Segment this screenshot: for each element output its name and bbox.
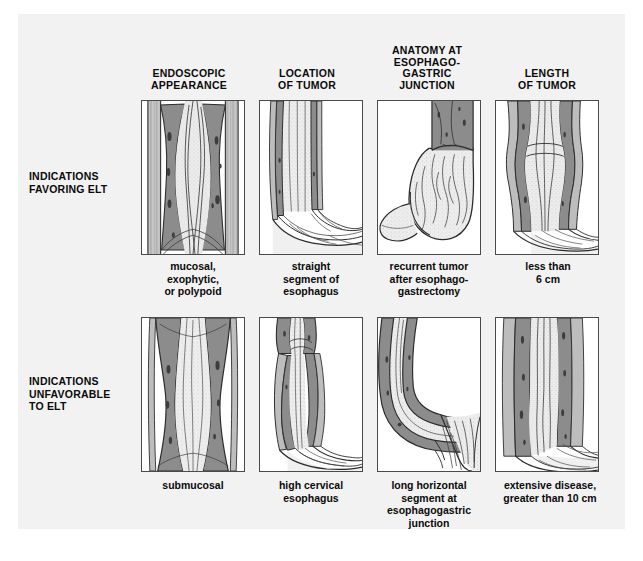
caption-r2c4: extensive disease, greater than 10 cm (488, 479, 612, 504)
extensive-long-tumor-illustration (496, 318, 598, 471)
figure-root: ENDOSCOPIC APPEARANCE LOCATION OF TUMOR … (0, 0, 643, 561)
illustration-panel-r2c4-length-of-tumor (495, 317, 599, 472)
header-line: APPEARANCE (136, 80, 242, 92)
caption-line: long horizontal (368, 479, 490, 492)
illustration-panel-r2c1-endoscopic-appearance (141, 317, 245, 472)
short-tumor-length-illustration (496, 101, 598, 254)
header-line: ENDOSCOPIC (136, 68, 242, 80)
illustration-panel-r2c2-location-of-tumor (259, 317, 363, 472)
caption-r1c1: mucosal, exophytic, or polypoid (136, 260, 250, 298)
illustration-panel-r1c1-endoscopic-appearance (141, 100, 245, 255)
column-header-location-of-tumor: LOCATION OF TUMOR (254, 68, 360, 91)
caption-line: esophagus (254, 285, 368, 298)
caption-r1c3: recurrent tumor after esophago- gastrect… (368, 260, 490, 298)
caption-line: after esophago- (368, 273, 490, 286)
caption-line: segment at (368, 492, 490, 505)
column-header-anatomy-at-esophagogastric-junction: ANATOMY AT ESOPHAGO- GASTRIC JUNCTION (372, 45, 482, 91)
header-line: LENGTH (494, 68, 600, 80)
row-label-line: UNFAVORABLE (29, 388, 133, 401)
caption-line: extensive disease, (488, 479, 612, 492)
caption-r1c4: less than 6 cm (492, 260, 604, 285)
caption-line: esophagus (254, 492, 368, 505)
column-header-endoscopic-appearance: ENDOSCOPIC APPEARANCE (136, 68, 242, 91)
esophagus-mucosal-tumor-illustration (142, 101, 244, 254)
caption-r1c2: straight segment of esophagus (254, 260, 368, 298)
header-line: LOCATION (254, 68, 360, 80)
row-label-line: FAVORING ELT (29, 183, 133, 196)
caption-line: submucosal (136, 479, 250, 492)
caption-line: esophagogastric (368, 504, 490, 517)
caption-line: mucosal, (136, 260, 250, 273)
long-horizontal-egj-segment-illustration (378, 318, 480, 471)
header-line: GASTRIC (372, 68, 482, 80)
row-label-line: INDICATIONS (29, 375, 133, 388)
caption-line: gastrectomy (368, 285, 490, 298)
caption-r2c3: long horizontal segment at esophagogastr… (368, 479, 490, 529)
caption-r2c2: high cervical esophagus (254, 479, 368, 504)
caption-line: straight (254, 260, 368, 273)
straight-esophageal-segment-illustration (260, 101, 362, 254)
caption-line: or polypoid (136, 285, 250, 298)
header-line: OF TUMOR (494, 80, 600, 92)
row-label-line: TO ELT (29, 400, 133, 413)
illustration-panel-r1c3-anatomy-at-egj (377, 100, 481, 255)
row-label-line: INDICATIONS (29, 170, 133, 183)
row-label-indications-favoring-elt: INDICATIONS FAVORING ELT (29, 170, 133, 195)
illustration-panel-r1c4-length-of-tumor (495, 100, 599, 255)
caption-line: recurrent tumor (368, 260, 490, 273)
caption-r2c1: submucosal (136, 479, 250, 492)
caption-line: exophytic, (136, 273, 250, 286)
caption-line: junction (368, 517, 490, 530)
gastric-pullup-recurrent-tumor-illustration (378, 101, 480, 254)
esophagus-submucosal-tumor-illustration (142, 318, 244, 471)
illustration-panel-r1c2-location-of-tumor (259, 100, 363, 255)
caption-line: less than (492, 260, 604, 273)
caption-line: segment of (254, 273, 368, 286)
header-line: ANATOMY AT (372, 45, 482, 57)
caption-line: high cervical (254, 479, 368, 492)
column-header-length-of-tumor: LENGTH OF TUMOR (494, 68, 600, 91)
caption-line: 6 cm (492, 273, 604, 286)
header-line: JUNCTION (372, 80, 482, 92)
illustration-panel-r2c3-anatomy-at-egj (377, 317, 481, 472)
high-cervical-esophagus-illustration (260, 318, 362, 471)
caption-line: greater than 10 cm (488, 492, 612, 505)
row-label-indications-unfavorable-to-elt: INDICATIONS UNFAVORABLE TO ELT (29, 375, 133, 413)
header-line: OF TUMOR (254, 80, 360, 92)
